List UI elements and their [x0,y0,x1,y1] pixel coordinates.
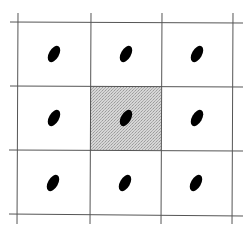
dots [44,44,206,194]
grid-diagram [0,0,252,233]
dot-r2-c1 [116,173,134,194]
dot-r2-c0 [44,173,62,194]
dot-r0-c2 [188,44,206,65]
dot-r1-c0 [45,108,63,129]
dot-r0-c0 [45,44,63,65]
dot-r1-c2 [188,108,206,129]
dot-r2-c2 [187,173,205,194]
dot-r0-c1 [117,44,135,65]
